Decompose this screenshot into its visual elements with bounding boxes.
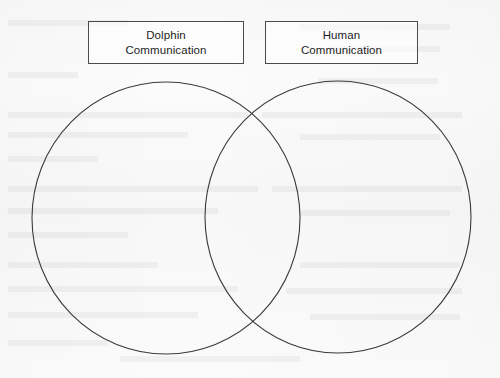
venn-circle-right[interactable] — [205, 81, 471, 353]
label-box-dolphin-communication[interactable]: Dolphin Communication — [88, 21, 244, 64]
label-line-1: Human — [323, 28, 361, 43]
venn-diagram-canvas — [0, 0, 500, 378]
label-line-2: Communication — [125, 43, 206, 58]
venn-circle-left[interactable] — [32, 82, 300, 354]
label-line-1: Dolphin — [146, 28, 186, 43]
label-box-human-communication[interactable]: Human Communication — [265, 21, 418, 64]
label-line-2: Communication — [301, 43, 382, 58]
venn-diagram-worksheet: Dolphin Communication Human Communicatio… — [0, 0, 500, 378]
